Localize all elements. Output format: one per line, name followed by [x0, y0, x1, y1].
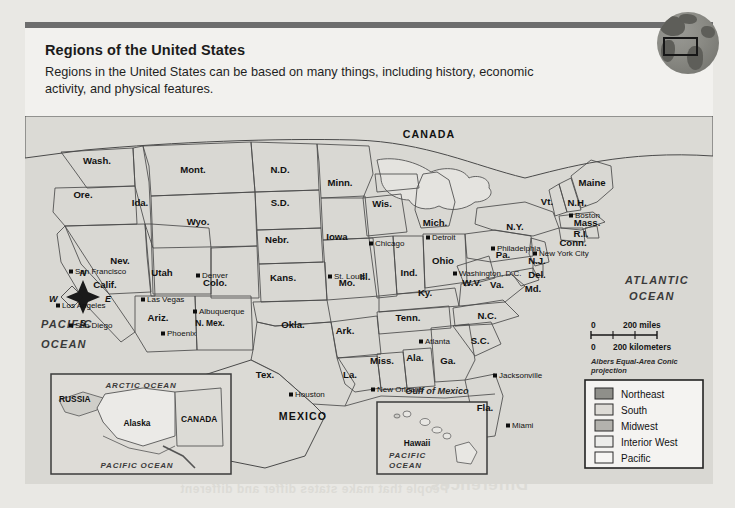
legend-swatch-south [595, 404, 613, 415]
state-label-ind: Ind. [400, 267, 417, 278]
legend-label-south: South [621, 405, 647, 416]
legend-item-interior-west[interactable]: Interior West [595, 436, 678, 448]
state-label-n-h: N.H. [567, 197, 586, 208]
globe-icon [657, 12, 719, 74]
state-label-del: Del. [528, 269, 546, 280]
city-dot [569, 214, 573, 218]
city-dot [491, 247, 495, 251]
us-regions-map: CANADA MEXICO ATLANTIC OCEAN PACIFIC OCE… [25, 116, 713, 484]
city-dot [141, 298, 145, 302]
city-dot [56, 304, 60, 308]
label-pacific-ocean-line2: OCEAN [41, 338, 87, 350]
alaska-inset: ARCTIC OCEAN RUSSIA CANADA Alaska PACIFI… [51, 374, 231, 474]
city-albuquerque: Albuquerque [193, 307, 245, 316]
city-san-francisco: San Francisco [69, 267, 127, 276]
compass-east: E [105, 294, 112, 304]
state-label-miss: Miss. [370, 355, 394, 366]
state-label-ga: Ga. [440, 355, 455, 366]
figure-card: Regions of the United States Regions in … [25, 22, 713, 484]
legend-swatch-midwest [595, 420, 613, 431]
legend-item-south[interactable]: South [595, 404, 647, 416]
state-label-minn: Minn. [327, 177, 352, 188]
city-washington-d-c: Washington, D.C. [453, 269, 521, 278]
label-canada: CANADA [403, 128, 456, 140]
legend-label-midwest: Midwest [621, 421, 658, 432]
state-label-ida: Ida. [132, 197, 149, 208]
state-label-nev: Nev. [110, 255, 130, 266]
state-label-n-c: N.C. [477, 310, 496, 321]
state-label-ore: Ore. [73, 189, 92, 200]
city-dot [69, 324, 73, 328]
city-dot [161, 332, 165, 336]
city-dot [193, 310, 197, 314]
legend-swatch-northeast [595, 388, 613, 399]
city-label: Los Angeles [62, 301, 106, 310]
city-label: San Diego [75, 321, 113, 330]
legend-item-pacific[interactable]: Pacific [595, 452, 650, 464]
state-label-wash: Wash. [83, 155, 111, 166]
state-label-la: La. [343, 369, 357, 380]
state-label-w-v: W.V. [462, 277, 481, 288]
city-dot [289, 393, 293, 397]
state-label-kans: Kans. [270, 272, 296, 283]
state-label-ala: Ala. [406, 352, 424, 363]
state-label-calif: Calif. [93, 279, 116, 290]
label-atlantic-ocean-line1: ATLANTIC [624, 274, 689, 286]
legend-item-midwest[interactable]: Midwest [595, 420, 658, 432]
city-jacksonville: Jacksonville [493, 371, 543, 380]
scale-km-zero: 0 [591, 342, 596, 352]
legend-item-northeast[interactable]: Northeast [595, 388, 665, 400]
hawaii-label-ocean: OCEAN [389, 461, 422, 470]
state-label-ky: Ky. [418, 287, 432, 298]
scale-miles-zero: 0 [591, 320, 596, 330]
state-label-tex: Tex. [256, 369, 274, 380]
city-houston: Houston [289, 390, 325, 399]
city-new-york-city: New York City [533, 249, 589, 258]
map-legend: Northeast South Midwest Interior West Pa… [585, 380, 703, 468]
hawaii-label-hawaii: Hawaii [404, 438, 431, 448]
city-dot [506, 424, 510, 428]
city-label: San Francisco [75, 267, 127, 276]
hawaii-label-pacific: PACIFIC [389, 451, 426, 460]
city-new-orleans: New Orleans [371, 385, 423, 394]
state-label-maine: Maine [578, 177, 605, 188]
state-label-utah: Utah [151, 267, 172, 278]
globe-highlight-rect [663, 37, 698, 56]
scale-miles-label: 200 miles [623, 320, 661, 330]
city-dot [453, 272, 457, 276]
city-label: New Orleans [377, 385, 423, 394]
state-label-conn: Conn. [559, 237, 586, 248]
page-title: Regions of the United States [45, 42, 245, 58]
state-label-n-y: N.Y. [506, 221, 524, 232]
city-label: New York City [539, 249, 589, 258]
scale-projection-line1: Albers Equal-Area Conic [590, 357, 678, 366]
city-label: Phoenix [167, 329, 196, 338]
city-label: Miami [512, 421, 534, 430]
city-phoenix: Phoenix [161, 329, 196, 338]
city-label: Atlanta [425, 337, 450, 346]
alaska-label-alaska: Alaska [123, 418, 150, 428]
city-san-diego: San Diego [69, 321, 113, 330]
state-label-wyo: Wyo. [187, 216, 210, 227]
city-los-angeles: Los Angeles [56, 301, 106, 310]
alaska-label-pacific-ocean: PACIFIC OCEAN [101, 461, 174, 470]
state-label-mich: Mich. [423, 217, 448, 228]
city-dot [369, 242, 373, 246]
legend-swatch-pacific [595, 452, 613, 463]
state-label-vt: Vt. [541, 196, 553, 207]
city-label: St. Louis [334, 272, 365, 281]
alaska-label-canada: CANADA [181, 414, 217, 424]
state-label-ark: Ark. [336, 325, 355, 336]
city-label: Jacksonville [499, 371, 543, 380]
state-label-mont: Mont. [180, 164, 206, 175]
city-dot [371, 388, 375, 392]
city-dot [69, 270, 73, 274]
city-label: Boston [575, 211, 600, 220]
state-label-n-mex: N. Mex. [195, 318, 224, 328]
alaska-label-arctic-ocean: ARCTIC OCEAN [105, 381, 177, 390]
scale-projection-line2: projection [590, 366, 627, 375]
city-label: Denver [202, 271, 228, 280]
city-st-louis: St. Louis [328, 272, 365, 281]
state-label-nebr: Nebr. [265, 234, 289, 245]
state-label-wis: Wis. [372, 198, 392, 209]
